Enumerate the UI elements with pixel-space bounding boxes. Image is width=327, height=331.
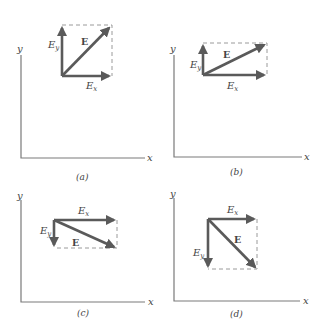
caption-c: (c) xyxy=(77,308,90,318)
e-arrow-icon xyxy=(54,220,114,247)
ey-label: Ey xyxy=(192,247,205,260)
panel-d: y x E Ey Ex (d) xyxy=(169,188,309,319)
e-label: E xyxy=(223,49,230,60)
axes xyxy=(174,55,302,157)
ex-label: Ex xyxy=(85,80,97,93)
caption-a: (a) xyxy=(76,172,89,182)
ey-label: Ey xyxy=(47,39,60,52)
vector-components-figure: y x E Ey Ex (a) y x E Ey Ex (b) y x E Ey… xyxy=(0,0,327,331)
axes xyxy=(21,55,145,158)
caption-d: (d) xyxy=(230,309,243,319)
e-arrow-icon xyxy=(208,219,255,267)
ex-label: Ex xyxy=(77,205,89,218)
x-axis-label: x xyxy=(303,295,309,306)
y-axis-label: y xyxy=(169,188,176,199)
y-axis-label: y xyxy=(16,43,23,54)
panel-b: y x E Ey Ex (b) xyxy=(169,43,310,177)
e-label: E xyxy=(81,36,88,47)
y-axis-label: y xyxy=(169,43,176,54)
ey-label: Ey xyxy=(189,59,202,72)
panel-a: y x E Ey Ex (a) xyxy=(16,25,153,182)
x-axis-label: x xyxy=(304,151,310,162)
ex-label: Ex xyxy=(226,204,238,217)
x-axis-label: x xyxy=(148,296,154,307)
e-label: E xyxy=(234,234,241,245)
y-axis-label: y xyxy=(16,190,23,201)
e-label: E xyxy=(72,237,79,248)
e-arrow-icon xyxy=(203,45,264,75)
caption-b: (b) xyxy=(230,167,243,177)
x-axis-label: x xyxy=(147,152,153,163)
panel-c: y x E Ey Ex (c) xyxy=(16,190,154,318)
ey-label: Ey xyxy=(39,225,52,238)
ex-label: Ex xyxy=(226,80,238,93)
